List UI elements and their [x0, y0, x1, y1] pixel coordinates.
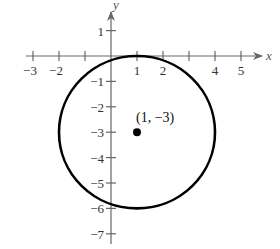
y-tick-label: −4 [90, 151, 104, 166]
x-tick-label: 2 [160, 63, 167, 78]
center-point [133, 128, 141, 136]
center-point-label: (1, −3) [136, 110, 175, 126]
x-tick-label: 5 [238, 63, 245, 78]
x-tick-label: −3 [23, 63, 37, 78]
y-tick-label: −5 [90, 176, 104, 191]
y-axis-label: y [111, 0, 119, 12]
x-tick-label: −2 [49, 63, 63, 78]
plotted-points: (1, −3) [133, 110, 175, 136]
x-tick-label: 1 [134, 63, 141, 78]
x-tick-label: 4 [212, 63, 219, 78]
y-tick-label: 1 [98, 24, 105, 39]
x-axis-label: x [265, 48, 272, 63]
y-tick-label: −3 [90, 125, 104, 140]
y-tick-label: −6 [90, 201, 104, 216]
x-tick-labels: −3−21245 [23, 63, 244, 78]
y-tick-label: −2 [90, 100, 104, 115]
y-tick-label: −7 [90, 227, 104, 242]
y-axis [106, 12, 116, 244]
graph: −3−21245 1−1−2−3−4−5−6−7 (1, −3) x y [0, 0, 280, 249]
y-tick-label: −1 [90, 74, 104, 89]
